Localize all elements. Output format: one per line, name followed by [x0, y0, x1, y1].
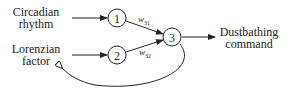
input-label-circadian: Circadian rhythm: [8, 6, 64, 30]
weight-sub: 31: [144, 20, 150, 26]
label-line: rhythm: [8, 18, 64, 30]
label-line: factor: [8, 55, 64, 67]
weight-w31: w31: [138, 14, 150, 26]
weight-sub: 32: [145, 53, 151, 59]
output-label: Dustbathing command: [218, 26, 280, 50]
node-2: 2: [108, 49, 126, 64]
node-3: 3: [163, 31, 181, 46]
input-label-lorenzian: Lorenzian factor: [8, 43, 64, 67]
label-line: command: [218, 38, 280, 50]
node-1: 1: [108, 12, 126, 27]
weight-w32: w32: [139, 47, 151, 59]
